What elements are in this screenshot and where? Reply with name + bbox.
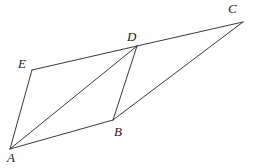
vertex-label-e: E xyxy=(18,57,26,70)
geometry-svg xyxy=(0,0,253,168)
vertex-label-d: D xyxy=(127,30,136,43)
segment-A-E xyxy=(10,70,32,149)
vertex-label-c: C xyxy=(228,2,237,15)
vertex-label-a: A xyxy=(7,151,15,164)
segment-D-B xyxy=(113,46,137,120)
segment-A-B xyxy=(10,120,113,149)
segment-E-D xyxy=(32,46,137,70)
geometry-figure: ABCDE xyxy=(0,0,253,168)
vertex-label-b: B xyxy=(114,125,122,138)
